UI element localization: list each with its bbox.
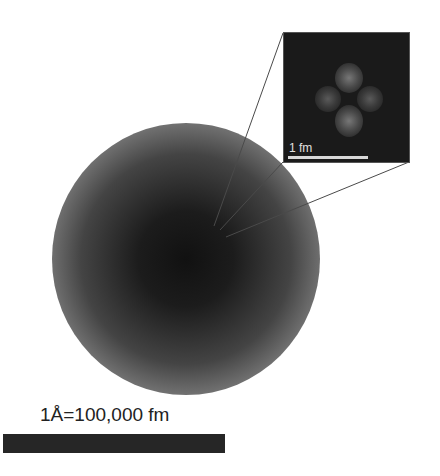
inset-scale-label: 1 fm xyxy=(289,141,312,155)
nucleon-left xyxy=(315,86,341,112)
nucleon-top xyxy=(335,63,363,93)
main-scale-label: 1Å=100,000 fm xyxy=(40,404,169,426)
nucleon-right xyxy=(357,86,383,112)
main-scale-bar xyxy=(3,434,225,453)
nucleus-inset: 1 fm xyxy=(283,32,410,163)
inset-scale-bar xyxy=(288,156,368,159)
nucleon-bottom xyxy=(335,105,363,137)
